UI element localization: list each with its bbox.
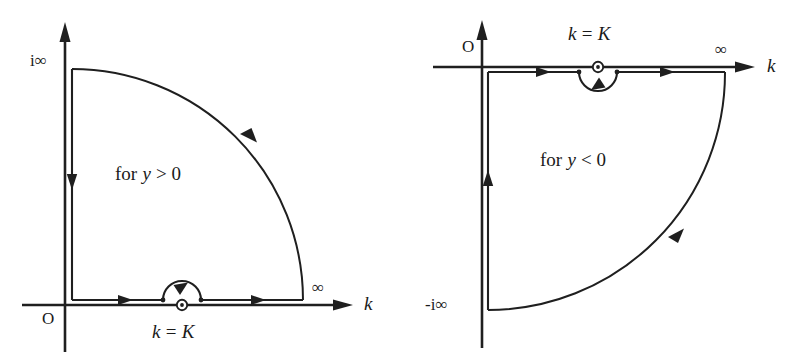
pole-marker <box>593 62 603 72</box>
region-label-lower: for y < 0 <box>540 150 606 169</box>
direction-arrow-lower-right <box>251 295 266 305</box>
detour-end-dot <box>199 298 204 303</box>
contour-panel-upper-half: i∞ O ∞ k for y > 0 k = K <box>0 0 405 361</box>
direction-arrow-arc <box>668 229 684 244</box>
direction-arrow-vertical <box>483 170 493 186</box>
real-infinity-label: ∞ <box>715 41 727 58</box>
contour-panel-lower-half: O -i∞ ∞ k for y < 0 k = K <box>405 0 810 361</box>
region-label-variable: y <box>142 163 150 184</box>
pole-label-equals: = <box>166 321 177 342</box>
pole-label-value: K <box>182 321 195 342</box>
imaginary-infinity-label: i∞ <box>30 52 47 69</box>
direction-arrow-vertical <box>67 174 77 190</box>
region-label-relation: > 0 <box>156 163 181 184</box>
contour-path <box>72 69 303 300</box>
imaginary-axis <box>60 22 71 352</box>
real-infinity-label: ∞ <box>312 279 324 296</box>
k-axis-label: k <box>364 294 372 313</box>
contour-diagram-upper <box>0 0 405 361</box>
region-label-variable: y <box>567 149 575 170</box>
region-label-upper: for y > 0 <box>115 164 181 183</box>
direction-arrow-upper-right <box>660 67 675 77</box>
pole-label-value: K <box>598 23 611 44</box>
pole-detour-semicircle <box>579 72 617 91</box>
detour-end-dot <box>615 70 620 75</box>
direction-arrow-arc <box>240 128 257 143</box>
region-label-lead: for <box>115 163 137 184</box>
contour-path <box>488 72 725 310</box>
pole-label-equals: = <box>582 23 593 44</box>
k-axis-label: k <box>767 56 775 75</box>
origin-label: O <box>462 38 474 55</box>
pole-marker <box>177 300 187 310</box>
region-label-lead: for <box>540 149 562 170</box>
figure-root: i∞ O ∞ k for y > 0 k = K <box>0 0 810 361</box>
negative-imaginary-infinity-label: -i∞ <box>425 296 448 313</box>
detour-start-dot <box>161 298 166 303</box>
region-label-relation: < 0 <box>581 149 606 170</box>
direction-arrow-upper-left <box>536 67 551 77</box>
origin-label: O <box>42 310 54 327</box>
pole-detour-semicircle <box>163 281 201 300</box>
direction-arrow-lower-left <box>118 295 133 305</box>
detour-start-dot <box>577 70 582 75</box>
pole-label-lower: k = K <box>568 24 610 43</box>
pole-label-upper: k = K <box>152 322 194 341</box>
